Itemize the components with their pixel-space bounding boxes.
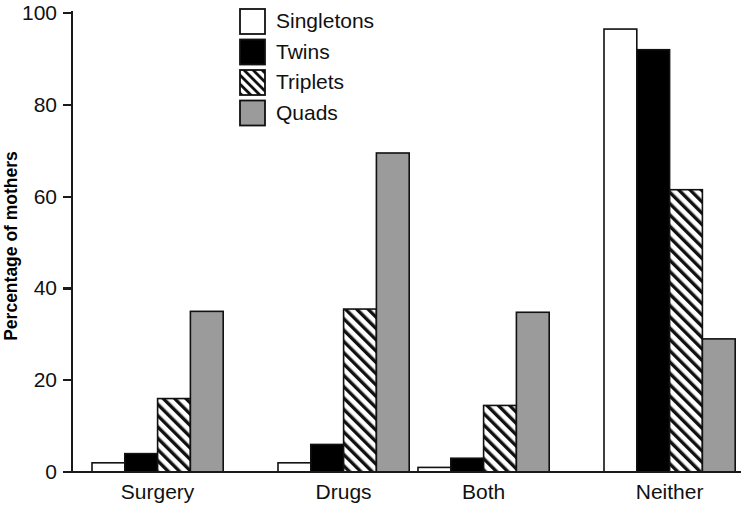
legend-swatch-quads <box>240 101 265 126</box>
legend-label-quads: Quads <box>276 101 338 124</box>
y-tick-label: 40 <box>34 276 57 299</box>
bar <box>125 454 158 472</box>
legend-label-twins: Twins <box>276 40 330 63</box>
bar-group <box>604 29 735 472</box>
legend-label-triplets: Triplets <box>276 70 344 93</box>
bar <box>190 311 223 472</box>
bar <box>344 309 377 472</box>
chart-canvas: 020406080100 SurgeryDrugsBothNeither Per… <box>0 0 743 507</box>
bar <box>637 50 670 472</box>
bar-group <box>278 153 409 472</box>
bars-layer <box>92 29 735 472</box>
chart-legend: SingletonsTwinsTripletsQuads <box>240 9 374 126</box>
bar <box>158 399 191 472</box>
x-axis-label-drugs: Drugs <box>316 480 372 503</box>
x-axis-category-labels: SurgeryDrugsBothNeither <box>121 480 704 503</box>
bar <box>604 29 637 472</box>
bar-group <box>418 312 549 472</box>
y-tick-label: 100 <box>22 1 57 24</box>
bar-group <box>92 311 223 472</box>
bar <box>484 405 517 472</box>
bar <box>92 463 125 472</box>
x-axis-label-neither: Neither <box>636 480 704 503</box>
x-axis-label-both: Both <box>462 480 505 503</box>
bar-chart-figure: 020406080100 SurgeryDrugsBothNeither Per… <box>0 0 743 507</box>
bar <box>516 312 549 472</box>
y-axis-title: Percentage of mothers <box>1 151 21 341</box>
bar <box>278 463 311 472</box>
y-tick-label: 80 <box>34 93 57 116</box>
legend-swatch-triplets <box>240 70 265 95</box>
y-tick-label: 20 <box>34 368 57 391</box>
x-axis-label-surgery: Surgery <box>121 480 195 503</box>
bar <box>311 444 344 472</box>
bar <box>702 339 735 472</box>
y-axis-ticks: 020406080100 <box>22 1 72 483</box>
bar <box>451 458 484 472</box>
legend-swatch-singletons <box>240 9 265 34</box>
legend-label-singletons: Singletons <box>276 9 374 32</box>
y-tick-label: 60 <box>34 185 57 208</box>
legend-swatch-twins <box>240 40 265 65</box>
y-tick-label: 0 <box>45 460 57 483</box>
bar <box>376 153 409 472</box>
bar <box>670 190 703 472</box>
